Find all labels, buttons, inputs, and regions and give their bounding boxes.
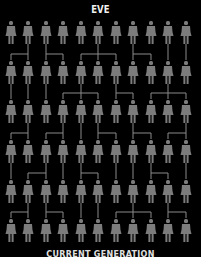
female-figure-icon <box>6 21 17 44</box>
lineage-connector <box>28 163 46 179</box>
female-figure-icon <box>163 180 174 203</box>
lineage-connector <box>81 163 98 179</box>
female-figure-icon <box>93 180 104 203</box>
genealogy-tree <box>0 0 201 257</box>
female-figure-icon <box>23 219 34 242</box>
female-figure-icon <box>111 100 122 123</box>
female-figure-icon <box>163 61 174 84</box>
female-figure-icon <box>23 61 34 84</box>
lineage-connector <box>168 203 186 218</box>
female-figure-icon <box>58 61 69 84</box>
female-figure-icon <box>58 21 69 44</box>
female-figure-icon <box>163 140 174 163</box>
female-figure-icon <box>181 21 192 44</box>
female-figure-icon <box>93 219 104 242</box>
female-figure-icon <box>111 180 122 203</box>
female-figure-icon <box>146 100 157 123</box>
female-figure-icon <box>93 61 104 84</box>
female-figure-icon <box>41 180 52 203</box>
female-figure-icon <box>163 21 174 44</box>
lineage-connector <box>63 84 98 99</box>
female-figure-icon <box>128 61 139 84</box>
female-figure-icon <box>111 219 122 242</box>
female-figure-icon <box>146 140 157 163</box>
female-figure-icon <box>181 180 192 203</box>
lineage-connector <box>151 84 186 99</box>
female-figure-icon <box>41 100 52 123</box>
lineage-connector <box>11 123 28 139</box>
female-figure-icon <box>93 100 104 123</box>
lineage-connector <box>46 123 63 139</box>
current-generation-label: CURRENT GENERATION <box>0 250 201 257</box>
female-figure-icon <box>128 100 139 123</box>
lineage-connector <box>133 123 151 139</box>
female-figure-icon <box>146 180 157 203</box>
lineage-connector <box>46 44 63 60</box>
female-figure-icon <box>146 219 157 242</box>
female-figure-icon <box>111 21 122 44</box>
female-figure-icon <box>23 180 34 203</box>
female-figure-icon <box>41 219 52 242</box>
female-figure-icon <box>6 219 17 242</box>
female-figure-icon <box>93 21 104 44</box>
female-figure-icon <box>163 100 174 123</box>
female-figure-icon <box>93 140 104 163</box>
female-figure-icon <box>58 100 69 123</box>
female-figure-icon <box>128 180 139 203</box>
female-figure-icon <box>6 61 17 84</box>
female-figure-icon <box>163 219 174 242</box>
female-figure-icon <box>76 21 87 44</box>
female-figure-icon <box>41 140 52 163</box>
lineage-connector <box>116 84 133 99</box>
female-figure-icon <box>76 140 87 163</box>
lineage-connector <box>133 44 151 60</box>
female-figure-icon <box>41 21 52 44</box>
lineage-connector <box>151 163 168 179</box>
female-figure-icon <box>23 21 34 44</box>
female-figure-icon <box>181 140 192 163</box>
lineage-connector <box>11 203 28 218</box>
female-figure-icon <box>181 100 192 123</box>
female-figure-icon <box>128 21 139 44</box>
female-figure-icon <box>58 140 69 163</box>
lineage-connector <box>81 44 116 60</box>
lineage-connector <box>116 203 151 218</box>
lineage-connector <box>98 123 116 139</box>
female-figure-icon <box>6 100 17 123</box>
female-figure-icon <box>76 180 87 203</box>
female-figure-icon <box>58 219 69 242</box>
female-figure-icon <box>6 140 17 163</box>
lineage-connector <box>11 44 28 60</box>
female-figure-icon <box>181 61 192 84</box>
female-figure-icon <box>41 61 52 84</box>
female-figure-icon <box>76 219 87 242</box>
female-figure-icon <box>111 61 122 84</box>
female-figure-icon <box>128 219 139 242</box>
female-figure-icon <box>128 140 139 163</box>
lineage-connector <box>168 123 186 139</box>
female-figure-icon <box>146 21 157 44</box>
female-figure-icon <box>23 100 34 123</box>
female-figure-icon <box>76 61 87 84</box>
female-figure-icon <box>23 140 34 163</box>
female-figure-icon <box>76 100 87 123</box>
female-figure-icon <box>58 180 69 203</box>
female-figure-icon <box>6 180 17 203</box>
lineage-connector <box>46 203 63 218</box>
female-figure-icon <box>146 61 157 84</box>
female-figure-icon <box>181 219 192 242</box>
female-figure-icon <box>111 140 122 163</box>
